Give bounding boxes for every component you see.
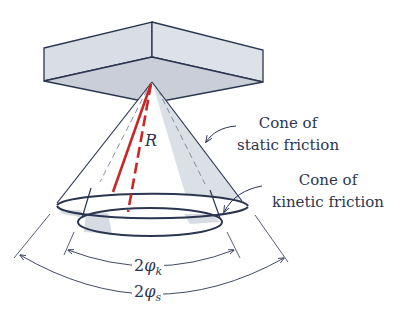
static-cone-label-line1: Cone of (228, 112, 348, 134)
static-cone-label: Cone of static friction (228, 112, 348, 156)
kinetic-cone-label-line2: kinetic friction (264, 191, 392, 213)
friction-cone-diagram (0, 0, 413, 316)
kinetic-angle-label: 2φk (132, 256, 164, 278)
static-extension-left (14, 214, 50, 258)
static-cone-label-line2: static friction (228, 134, 348, 156)
kinetic-extension-right (227, 232, 240, 258)
static-extension-right (255, 215, 288, 262)
resultant-label: R (145, 130, 157, 152)
kinetic-cone-label-line1: Cone of (264, 169, 392, 191)
kinetic-cone-label: Cone of kinetic friction (264, 169, 392, 213)
static-angle-label: 2φs (132, 282, 163, 304)
